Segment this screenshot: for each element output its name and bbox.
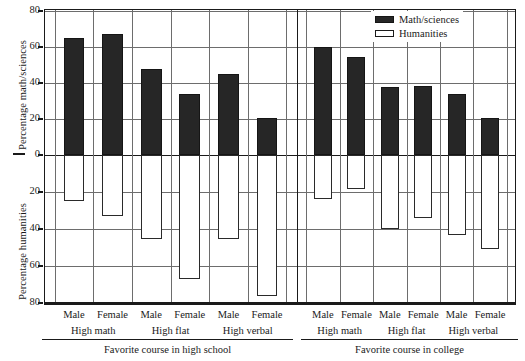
bar-humanities-high-school-3 <box>179 155 200 279</box>
plot-area <box>44 9 516 305</box>
y-tick-label-zero: 0 <box>18 148 40 159</box>
bar-math-high-school-0 <box>64 38 85 155</box>
legend-swatch-humanities-icon <box>375 30 394 37</box>
y-axis-title-humanities: Percentage humanities <box>17 203 28 300</box>
y-tick-label-top-60: 60 <box>18 40 40 51</box>
gridline-vertical <box>93 10 94 304</box>
bar-humanities-high-school-1 <box>102 155 123 216</box>
gridline-vertical <box>171 10 172 304</box>
bar-humanities-college-3 <box>414 155 432 218</box>
panel-title-college: Favorite course in college <box>301 344 518 355</box>
legend-item-math: Math/sciences <box>375 13 459 27</box>
panel-title-high-school: Favorite course in high school <box>42 344 293 355</box>
panel-underline <box>42 339 293 340</box>
bar-math-college-0 <box>314 47 332 155</box>
bar-math-high-school-4 <box>218 74 239 155</box>
y-tick-label-bottom-80: 80 <box>18 296 40 307</box>
y-axis-title-math: Percentage math/sciences <box>17 40 28 150</box>
x-group-label: High verbal <box>210 325 286 336</box>
x-tick-label-sex: Female <box>239 309 295 320</box>
x-group-label: High flat <box>133 325 209 336</box>
gridline-vertical <box>407 10 408 304</box>
gridline-vertical <box>440 10 441 304</box>
legend-swatch-math-icon <box>375 16 394 23</box>
bar-math-high-school-2 <box>141 69 162 155</box>
y-tick-label-bottom-60: 60 <box>18 259 40 270</box>
bar-math-college-3 <box>414 86 432 155</box>
y-tick-label-bottom-20: 20 <box>18 185 40 196</box>
x-group-label: High flat <box>369 325 445 336</box>
y-tick-label-bottom-40: 40 <box>18 222 40 233</box>
bar-humanities-college-5 <box>481 155 499 249</box>
bar-math-college-1 <box>347 57 365 155</box>
panel-underline <box>301 339 518 340</box>
bar-math-college-5 <box>481 118 499 155</box>
bar-humanities-high-school-2 <box>141 155 162 239</box>
bar-humanities-college-2 <box>381 155 399 229</box>
x-group-label: High verbal <box>435 325 511 336</box>
x-tick-label-sex: Female <box>462 309 518 320</box>
gridline-vertical <box>209 10 210 304</box>
gridline-vertical <box>473 10 474 304</box>
x-axis-line <box>44 302 516 305</box>
bar-humanities-high-school-0 <box>64 155 85 201</box>
bar-humanities-college-1 <box>347 155 365 189</box>
bar-math-high-school-3 <box>179 94 200 155</box>
bar-humanities-college-4 <box>448 155 466 235</box>
chart-figure: Percentage math/sciences Percentage huma… <box>0 0 525 361</box>
gridline-vertical <box>306 10 307 304</box>
x-group-label: High math <box>55 325 131 336</box>
y-tick-label-top-40: 40 <box>18 76 40 87</box>
gridline-vertical <box>373 10 374 304</box>
bar-math-high-school-1 <box>102 34 123 155</box>
legend-label-humanities: Humanities <box>399 27 447 41</box>
gridline-vertical <box>55 10 56 304</box>
gridline-bottom-40 <box>45 229 515 230</box>
gridline-bottom-60 <box>45 266 515 267</box>
chart-legend: Math/sciences Humanities <box>371 11 463 42</box>
gridline-vertical <box>507 10 508 304</box>
bar-math-high-school-5 <box>257 118 278 155</box>
bar-math-college-4 <box>448 94 466 155</box>
y-tick-label-top-20: 20 <box>18 112 40 123</box>
x-group-label: High math <box>302 325 378 336</box>
legend-item-humanities: Humanities <box>375 27 459 41</box>
gridline-vertical <box>248 10 249 304</box>
bar-humanities-high-school-5 <box>257 155 278 296</box>
gridline-vertical <box>286 10 287 304</box>
bar-math-college-2 <box>381 87 399 155</box>
y-tick-label-top-80: 80 <box>18 4 40 15</box>
panel-divider <box>297 10 298 304</box>
legend-label-math: Math/sciences <box>399 13 459 27</box>
bar-humanities-college-0 <box>314 155 332 199</box>
bar-humanities-high-school-4 <box>218 155 239 239</box>
gridline-vertical <box>132 10 133 304</box>
gridline-vertical <box>340 10 341 304</box>
